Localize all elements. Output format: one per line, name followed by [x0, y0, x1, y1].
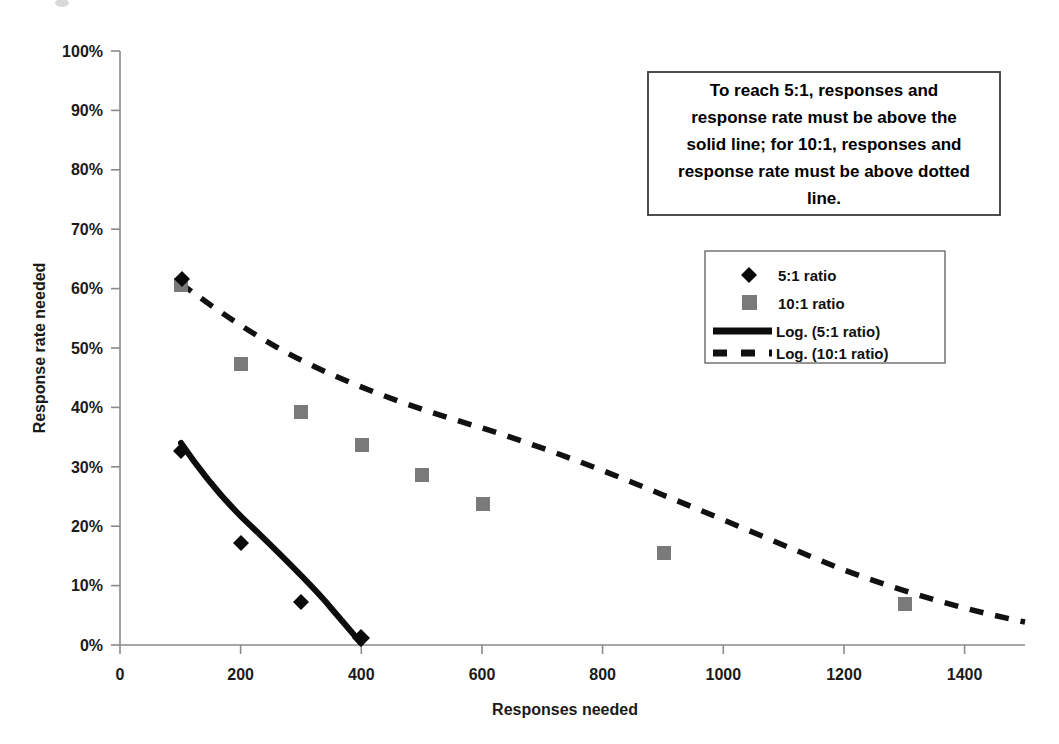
y-tick-label: 0%	[80, 637, 103, 654]
y-axis	[111, 51, 120, 645]
data-point-marker	[234, 357, 248, 371]
note-line: response rate must be above dotted	[678, 162, 970, 181]
data-point-marker	[173, 443, 189, 459]
x-tick-label: 1400	[947, 666, 983, 683]
x-tick-labels: 0 200 400 600 800 1000 1200 1400	[116, 666, 983, 683]
legend-label: Log. (10:1 ratio)	[776, 345, 889, 362]
y-tick-label: 100%	[62, 43, 103, 60]
x-tick-label: 1200	[826, 666, 862, 683]
data-point-marker	[355, 438, 369, 452]
data-point-marker	[657, 546, 671, 560]
response-rate-scatter-chart: 100% 90% 80% 70% 60% 50% 40% 30% 20% 10%…	[0, 0, 1059, 744]
y-tick-label: 20%	[71, 518, 103, 535]
x-axis	[120, 645, 1025, 654]
x-axis-title: Responses needed	[492, 701, 638, 718]
note-line: line.	[807, 189, 841, 208]
legend-square-icon	[742, 295, 757, 310]
y-tick-label: 10%	[71, 577, 103, 594]
x-tick-label: 400	[348, 666, 375, 683]
y-tick-label: 70%	[71, 221, 103, 238]
y-tick-label: 90%	[71, 102, 103, 119]
data-point-marker	[415, 468, 429, 482]
data-point-marker	[898, 597, 912, 611]
y-tick-label: 80%	[71, 161, 103, 178]
y-tick-label: 40%	[71, 399, 103, 416]
series-5-1-ratio-markers	[173, 271, 370, 647]
series-log-5-1-ratio-line	[181, 443, 361, 643]
chart-legend: 5:1 ratio 10:1 ratio Log. (5:1 ratio) Lo…	[705, 251, 945, 363]
data-point-marker	[294, 405, 308, 419]
data-point-marker	[293, 594, 309, 610]
x-tick-label: 800	[589, 666, 616, 683]
legend-label: 5:1 ratio	[778, 267, 836, 284]
y-tick-label: 50%	[71, 340, 103, 357]
note-line: To reach 5:1, responses and	[710, 81, 938, 100]
y-tick-label: 60%	[71, 280, 103, 297]
x-tick-label: 600	[469, 666, 496, 683]
data-point-marker	[233, 535, 249, 551]
scan-artifact	[55, 0, 69, 7]
note-box: To reach 5:1, responses and response rat…	[648, 72, 1000, 215]
y-axis-title: Response rate needed	[31, 263, 48, 434]
legend-label: 10:1 ratio	[778, 295, 845, 312]
x-tick-label: 1000	[706, 666, 742, 683]
chart-page: 100% 90% 80% 70% 60% 50% 40% 30% 20% 10%…	[0, 0, 1059, 744]
y-tick-labels: 100% 90% 80% 70% 60% 50% 40% 30% 20% 10%…	[62, 43, 103, 654]
x-tick-label: 0	[116, 666, 125, 683]
legend-label: Log. (5:1 ratio)	[776, 323, 880, 340]
note-line: response rate must be above the	[691, 108, 956, 127]
data-point-marker	[476, 497, 490, 511]
y-tick-label: 30%	[71, 459, 103, 476]
x-tick-label: 200	[227, 666, 254, 683]
note-line: solid line; for 10:1, responses and	[687, 135, 962, 154]
